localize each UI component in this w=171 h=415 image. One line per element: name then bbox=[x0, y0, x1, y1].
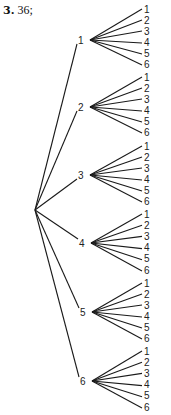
leaf-label: 2 bbox=[144, 83, 150, 94]
leaf-branch-line bbox=[91, 236, 142, 243]
leaf-branch-line bbox=[92, 283, 142, 312]
leaf-label: 3 bbox=[144, 94, 150, 105]
leaf-label: 3 bbox=[144, 368, 150, 379]
leaf-branch-line bbox=[90, 157, 142, 175]
leaf-label: 4 bbox=[144, 105, 150, 116]
branch-label: 1 bbox=[78, 35, 84, 46]
leaf-label: 4 bbox=[144, 37, 150, 48]
leaf-label: 3 bbox=[144, 163, 150, 174]
leaf-label: 2 bbox=[144, 357, 150, 368]
leaf-label: 6 bbox=[144, 59, 150, 70]
leaf-label: 5 bbox=[144, 185, 150, 196]
leaf-branch-line bbox=[92, 373, 142, 381]
leaf-label: 6 bbox=[144, 127, 150, 138]
leaf-branch-line bbox=[90, 146, 142, 175]
leaf-label: 6 bbox=[144, 333, 150, 344]
leaf-label: 3 bbox=[144, 300, 150, 311]
leaf-label: 5 bbox=[144, 116, 150, 127]
leaf-label: 1 bbox=[144, 278, 150, 289]
leaf-label: 4 bbox=[144, 379, 150, 390]
leaf-label: 3 bbox=[144, 231, 150, 242]
leaf-label: 6 bbox=[144, 402, 150, 413]
leaf-branch-line bbox=[91, 214, 142, 243]
leaf-label: 6 bbox=[144, 265, 150, 276]
leaf-label: 4 bbox=[144, 174, 150, 185]
leaf-branch-line bbox=[90, 168, 142, 175]
leaf-branch-line bbox=[92, 362, 142, 381]
branch-label: 4 bbox=[79, 238, 85, 249]
leaf-branch-line bbox=[92, 294, 142, 312]
leaf-label: 5 bbox=[144, 253, 150, 264]
leaf-label: 2 bbox=[144, 220, 150, 231]
leaf-label: 1 bbox=[144, 72, 150, 83]
tree-diagram: 1123456212345631234564123456512345661234… bbox=[0, 0, 171, 415]
leaf-label: 5 bbox=[144, 48, 150, 59]
branch-label: 6 bbox=[80, 376, 86, 387]
branch-label: 3 bbox=[78, 170, 84, 181]
leaf-label: 4 bbox=[144, 242, 150, 253]
leaf-branch-line bbox=[92, 305, 142, 312]
leaf-branch-line bbox=[90, 88, 142, 107]
leaf-label: 4 bbox=[144, 311, 150, 322]
leaf-label: 5 bbox=[144, 322, 150, 333]
leaf-label: 1 bbox=[144, 346, 150, 357]
leaf-label: 1 bbox=[144, 209, 150, 220]
branch-label: 5 bbox=[80, 307, 86, 318]
leaf-label: 2 bbox=[144, 152, 150, 163]
leaf-label: 2 bbox=[144, 15, 150, 26]
branch-label: 2 bbox=[78, 102, 84, 113]
leaf-label: 1 bbox=[144, 4, 150, 15]
leaf-branch-line bbox=[90, 20, 142, 40]
leaf-label: 2 bbox=[144, 289, 150, 300]
leaf-label: 5 bbox=[144, 390, 150, 401]
leaf-branch-line bbox=[92, 351, 142, 381]
leaf-label: 1 bbox=[144, 141, 150, 152]
leaf-branch-line bbox=[90, 40, 142, 65]
leaf-label: 6 bbox=[144, 196, 150, 207]
leaf-label: 3 bbox=[144, 26, 150, 37]
